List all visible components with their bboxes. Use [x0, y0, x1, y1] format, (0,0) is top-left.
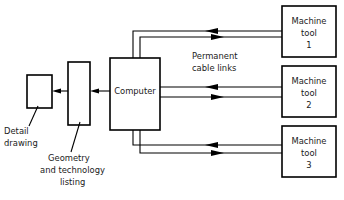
detail-drawing-box[interactable] [27, 75, 52, 108]
diagram-canvas: Computer Machine tool 1 Machine tool 2 M… [0, 0, 344, 200]
machine-tool-2-label-line2: tool [301, 88, 317, 98]
machine-tool-3-label-line2: tool [301, 148, 317, 158]
detail-drawing-callout-line2: drawing [4, 138, 38, 148]
arrow-machine-tool-3-download [205, 142, 218, 148]
machine-tool-1-label-line1: Machine [291, 16, 326, 26]
permanent-cable-links-label-line2: cable links [192, 63, 236, 73]
arrow-machine-tool-2-upload [211, 94, 224, 100]
arrow-machine-tool-1-download [205, 28, 218, 34]
machine-tool-1-label-line3: 1 [306, 40, 311, 50]
machine-tool-3-label-line3: 3 [306, 160, 311, 170]
arrow-machine-tool-1-upload [211, 34, 224, 40]
dnc-block-diagram: Computer Machine tool 1 Machine tool 2 M… [0, 0, 344, 200]
geometry-listing-callout-line1: Geometry [48, 153, 90, 163]
arrow-machine-tool-2-download [205, 84, 218, 90]
computer-label: Computer [114, 86, 156, 96]
arrow-computer-to-geometry [90, 88, 99, 93]
leader-geometry-listing [71, 122, 80, 152]
arrow-machine-tool-3-upload [211, 150, 224, 156]
leader-detail-drawing [29, 106, 38, 126]
cable-machine-tool-3-upload [140, 130, 282, 153]
machine-tool-2-label-line3: 2 [306, 100, 311, 110]
machine-tool-2-label-line1: Machine [291, 76, 326, 86]
detail-drawing-callout-line1: Detail [4, 126, 29, 136]
machine-tool-1-label-line2: tool [301, 28, 317, 38]
geometry-listing-box[interactable] [68, 62, 90, 125]
arrow-geometry-to-detail [52, 88, 61, 93]
machine-tool-3-label-line1: Machine [291, 136, 326, 146]
cable-machine-tool-3-download [133, 130, 282, 145]
geometry-listing-callout-line2: and technology [40, 165, 105, 175]
permanent-cable-links-label-line1: Permanent [192, 51, 238, 61]
geometry-listing-callout-line3: listing [60, 177, 85, 187]
